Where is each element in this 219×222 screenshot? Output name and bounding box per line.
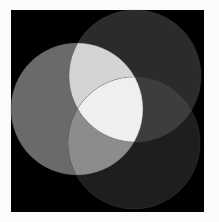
diagram-canvas bbox=[0, 0, 219, 222]
venn-diagram bbox=[0, 0, 219, 222]
